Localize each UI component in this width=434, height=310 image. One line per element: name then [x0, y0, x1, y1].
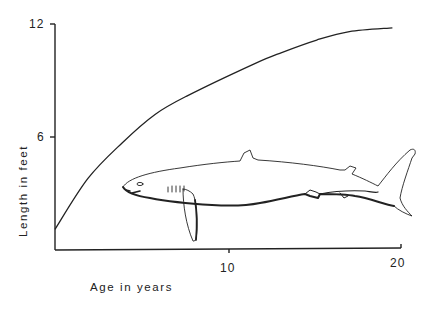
- x-tick-label-10: 10: [220, 261, 235, 275]
- y-axis-title: Length in feet: [17, 145, 29, 237]
- y-axis: [50, 24, 55, 250]
- x-axis-title: Age in years: [90, 281, 173, 293]
- growth-chart: 12 6 10 20 Age in years Length in feet: [0, 0, 434, 310]
- y-tick-label-6: 6: [37, 130, 45, 144]
- chart-canvas: [0, 0, 434, 310]
- growth-curve-line: [55, 28, 392, 229]
- y-tick-label-12: 12: [29, 17, 44, 31]
- x-tick-label-20: 20: [390, 256, 405, 270]
- x-axis: [55, 244, 401, 253]
- shark-icon: [123, 149, 415, 241]
